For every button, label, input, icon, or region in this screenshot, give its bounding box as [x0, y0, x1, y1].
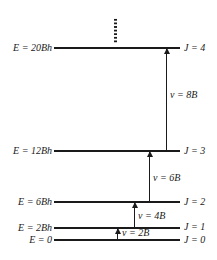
level-line-j4: [54, 47, 180, 49]
energy-label-j3: E = 12Bh: [13, 146, 52, 156]
arrow-up-icon: [149, 152, 150, 201]
arrow-up-icon: [117, 229, 118, 239]
j-label-j0: J = 0: [184, 235, 205, 245]
arrow-up-icon: [166, 49, 167, 150]
continuation-dots: [114, 18, 117, 44]
level-line-j2: [54, 201, 180, 203]
energy-label-j0: E = 0: [29, 235, 52, 245]
level-line-j3: [54, 150, 180, 152]
j-label-j2: J = 2: [184, 197, 205, 207]
j-label-j1: J = 1: [184, 222, 205, 232]
transition-label-4b: ν = 4B: [138, 211, 165, 221]
energy-label-j1: E = 2Bh: [18, 223, 52, 233]
arrow-up-icon: [134, 203, 135, 227]
transition-label-6b: ν = 6B: [153, 173, 180, 183]
energy-label-j4: E = 20Bh: [13, 43, 52, 53]
j-label-j4: J = 4: [184, 43, 205, 53]
level-line-j0: [54, 239, 180, 241]
transition-label-2b: ν = 2B: [122, 228, 149, 238]
transition-label-8b: ν = 8B: [170, 90, 197, 100]
energy-label-j2: E = 6Bh: [18, 197, 52, 207]
j-label-j3: J = 3: [184, 146, 205, 156]
